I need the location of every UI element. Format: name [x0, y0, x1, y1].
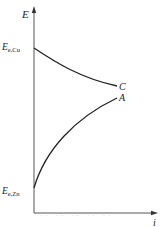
figure-caption: ·· ·· ·· ·· ··: [40, 212, 150, 220]
curve-c-label: C: [119, 81, 126, 92]
curve-c: [34, 48, 117, 86]
polarization-diagram: E i Ee,Cu Ee,Zn C A: [0, 0, 161, 227]
x-axis-arrow-icon: [151, 211, 158, 215]
zn-equilibrium-label: Ee,Zn: [1, 186, 20, 197]
y-axis-arrow-icon: [32, 6, 36, 13]
curve-a: [34, 98, 117, 188]
cu-equilibrium-label: Ee,Cu: [1, 42, 21, 53]
curve-a-label: A: [118, 92, 126, 103]
y-axis-label: E: [21, 8, 29, 20]
x-axis-label: i: [153, 217, 156, 227]
